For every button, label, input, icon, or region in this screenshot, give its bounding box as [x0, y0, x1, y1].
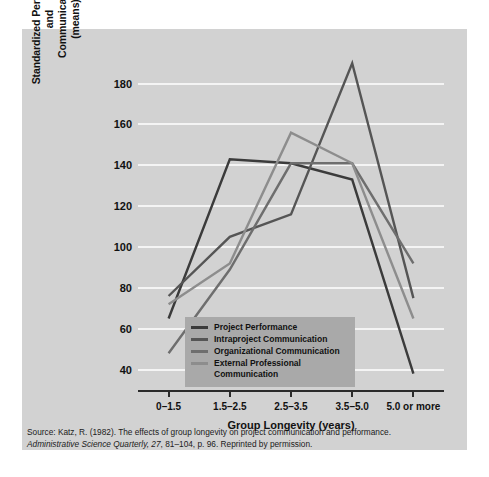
y-axis-title-line-2: and [43, 0, 56, 84]
x-axis-tick-mark [290, 390, 292, 397]
y-axis-tick-label: 60 [120, 323, 132, 335]
caption-line-2: , 81–104, p. 96. Reprinted by permission… [161, 439, 313, 449]
y-axis-tick-label: 120 [114, 200, 132, 212]
y-axis-title: Standardized Performance and Communicati… [32, 0, 80, 119]
source-caption: Source: Katz, R. (1982). The effects of … [27, 427, 467, 450]
legend-swatch-icon [191, 350, 208, 353]
legend-item[interactable]: Organizational Communication [191, 346, 349, 357]
y-axis-title-line-3: Communication [56, 0, 69, 84]
caption-line-1: Source: Katz, R. (1982). The effects of … [27, 427, 391, 437]
chart-legend: Project PerformanceIntraproject Communic… [185, 317, 355, 387]
y-axis-tick-label: 160 [114, 118, 132, 130]
legend-item-label: Intraproject Communication [214, 334, 327, 345]
y-axis-tick-label: 180 [114, 78, 132, 90]
legend-item[interactable]: External Professional Communication [191, 358, 349, 380]
legend-item-label: Organizational Communication [214, 346, 340, 357]
x-axis-tick-label: 0–1.5 [156, 401, 181, 412]
x-axis-tick-mark [229, 390, 231, 397]
y-axis-tick-label: 40 [120, 364, 132, 376]
series-line [169, 63, 414, 298]
y-axis-tick-label: 140 [114, 159, 132, 171]
figure-panel: Standardized Performance and Communicati… [22, 29, 467, 450]
legend-swatch-icon [191, 338, 208, 341]
legend-swatch-icon [191, 326, 208, 329]
y-axis-tick-label: 80 [120, 282, 132, 294]
x-axis-tick-mark [168, 390, 170, 397]
legend-item[interactable]: Intraproject Communication [191, 334, 349, 345]
y-axis-title-line-1: Standardized Performance [30, 0, 43, 84]
x-axis-tick-mark [351, 390, 353, 397]
legend-swatch-icon [191, 362, 208, 365]
legend-item-label: Project Performance [214, 322, 297, 333]
caption-journal: Administrative Science Quarterly, 27 [27, 439, 161, 449]
legend-item-label: External Professional Communication [214, 358, 349, 380]
x-axis-tick-label: 2.5–3.5 [274, 401, 307, 412]
x-axis-tick-label: 1.5–2.5 [213, 401, 246, 412]
x-axis-tick-label: 3.5–5.0 [336, 401, 369, 412]
y-axis-tick-label: 100 [114, 241, 132, 253]
x-axis-tick-label: 5.0 or more [386, 401, 440, 412]
legend-item[interactable]: Project Performance [191, 322, 349, 333]
x-axis-tick-mark [412, 390, 414, 397]
y-axis-title-line-4: (means) [69, 0, 82, 84]
